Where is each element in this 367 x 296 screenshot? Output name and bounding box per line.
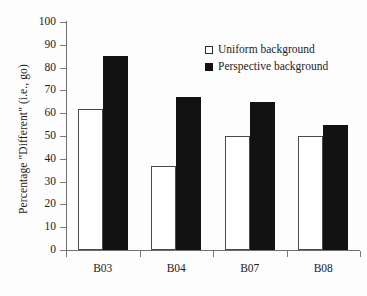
bar-b07-perspective-background [250, 102, 275, 250]
y-tick-mark [60, 68, 66, 69]
x-tick-mark [213, 251, 214, 257]
bar-chart: Percentage "Different" (i.e., go) 010203… [0, 0, 367, 296]
y-tick-label-wrap: 30 [11, 176, 56, 187]
y-tick-label-wrap: 10 [11, 221, 56, 232]
y-tick-label-wrap: 20 [11, 198, 56, 209]
y-tick-mark [60, 136, 66, 137]
y-tick-label: 20 [16, 198, 56, 209]
y-axis-spine [66, 21, 67, 251]
y-tick-label: 30 [16, 176, 56, 187]
bar-b08-perspective-background [323, 125, 348, 250]
y-tick-label: 0 [16, 244, 56, 255]
x-tick-mark [66, 251, 67, 257]
bar-b07-uniform-background [225, 136, 250, 250]
bar-b08-uniform-background [298, 136, 323, 250]
y-tick-mark [60, 227, 66, 228]
legend-item-perspective-background: Perspective background [205, 59, 328, 74]
y-tick-label: 100 [16, 16, 56, 27]
y-tick-mark [60, 159, 66, 160]
y-tick-label: 40 [16, 153, 56, 164]
y-tick-label-wrap: 70 [11, 84, 56, 95]
y-tick-label-wrap: 100 [11, 16, 56, 27]
y-tick-label: 90 [16, 39, 56, 50]
bar-b04-perspective-background [176, 97, 201, 250]
bar-b03-perspective-background [103, 56, 128, 250]
y-tick-label: 80 [16, 62, 56, 73]
legend-label-perspective-background: Perspective background [218, 59, 328, 74]
y-tick-label-wrap: 0 [11, 244, 56, 255]
y-tick-label-wrap: 80 [11, 62, 56, 73]
y-tick-mark [60, 90, 66, 91]
x-tick-mark [140, 251, 141, 257]
y-tick-label: 10 [16, 221, 56, 232]
bar-b04-uniform-background [151, 166, 176, 250]
y-tick-mark [60, 182, 66, 183]
legend-label-uniform-background: Uniform background [218, 42, 315, 57]
x-category-label-b04: B04 [139, 262, 213, 274]
y-tick-label: 50 [16, 130, 56, 141]
y-tick-label-wrap: 40 [11, 153, 56, 164]
y-tick-mark [60, 22, 66, 23]
y-tick-mark [60, 204, 66, 205]
y-tick-label-wrap: 90 [11, 39, 56, 50]
legend-item-uniform-background: Uniform background [205, 42, 328, 57]
x-tick-mark [287, 251, 288, 257]
x-category-label-b08: B08 [286, 262, 360, 274]
y-tick-mark [60, 45, 66, 46]
x-category-label-b07: B07 [213, 262, 287, 274]
legend-swatch-open-square-icon [205, 46, 213, 54]
y-tick-mark [60, 113, 66, 114]
bar-b03-uniform-background [78, 109, 103, 250]
x-tick-mark [360, 251, 361, 257]
chart-legend: Uniform background Perspective backgroun… [205, 42, 328, 76]
y-tick-label: 70 [16, 84, 56, 95]
legend-swatch-filled-square-icon [205, 63, 213, 71]
y-tick-label-wrap: 50 [11, 130, 56, 141]
x-category-label-b03: B03 [66, 262, 140, 274]
y-tick-label-wrap: 60 [11, 107, 56, 118]
y-tick-label: 60 [16, 107, 56, 118]
